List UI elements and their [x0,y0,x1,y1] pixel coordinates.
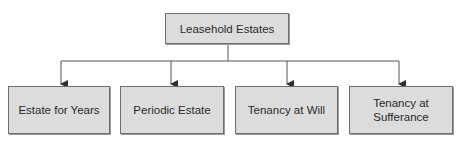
child-node-label: Estate for Years [18,103,99,117]
root-node-label: Leasehold Estates [180,22,275,36]
child-node-tenancy-at-sufferance: Tenancy at Sufferance [349,86,453,134]
leasehold-estates-diagram: Leasehold Estates Estate for Years Perio… [0,0,467,145]
child-node-tenancy-at-will: Tenancy at Will [235,86,338,134]
root-node-leasehold-estates: Leasehold Estates [165,13,289,44]
child-node-periodic-estate: Periodic Estate [120,86,224,134]
child-node-label: Periodic Estate [133,103,210,117]
child-node-label: Tenancy at Sufferance [373,96,429,124]
child-node-label: Tenancy at Will [248,103,325,117]
child-node-estate-for-years: Estate for Years [8,86,110,134]
